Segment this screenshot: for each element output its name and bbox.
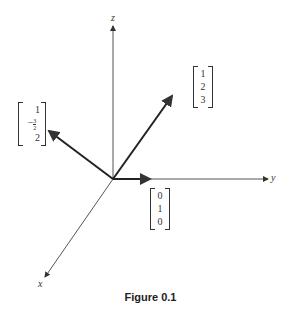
vector-b-c1: 1 <box>35 104 40 116</box>
vector-010-c1: 0 <box>158 190 163 202</box>
figure-caption: Figure 0.1 <box>0 291 301 303</box>
vector-b-c2: −32 <box>28 117 37 130</box>
x-axis <box>45 179 113 277</box>
x-axis-label: x <box>38 278 42 289</box>
vector-1-neg32-2-matrix: 1 −32 2 <box>18 102 46 146</box>
vector-123-arrow <box>113 96 172 179</box>
vector-123-matrix: 1 2 3 <box>193 66 213 108</box>
vector-123-c2: 2 <box>201 81 206 93</box>
vector-123-c3: 3 <box>201 94 206 106</box>
vector-123-c1: 1 <box>201 68 206 80</box>
y-axis-label: y <box>271 172 275 183</box>
vector-b-c3: 2 <box>35 132 40 144</box>
vector-010-matrix: 0 1 0 <box>150 188 170 230</box>
vector-010-c3: 0 <box>158 216 163 228</box>
vector-010-c2: 1 <box>158 203 163 215</box>
z-axis-label: z <box>111 12 115 23</box>
vector-1-neg32-2-arrow <box>49 131 113 179</box>
axes-diagram <box>0 0 301 318</box>
